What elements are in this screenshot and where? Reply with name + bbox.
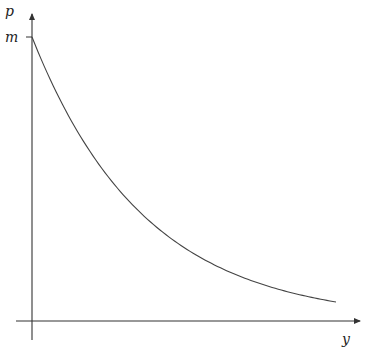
y-axis-label: p — [5, 3, 14, 19]
tick-label-m: m — [5, 29, 18, 45]
chart-canvas: p m y — [0, 0, 371, 361]
decay-curve — [32, 37, 336, 302]
x-axis-label: y — [341, 331, 351, 347]
